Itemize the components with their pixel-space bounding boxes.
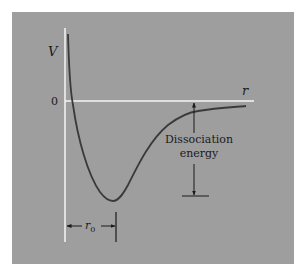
y-axis-label: V <box>48 44 59 59</box>
zero-label: 0 <box>51 95 58 108</box>
dissociation-label-line1: Dissociation <box>165 133 233 146</box>
r0-subscript: 0 <box>90 225 95 234</box>
dissociation-label-line2: energy <box>180 147 219 160</box>
potential-energy-diagram: V r 0 Dissociation energy r0 <box>0 0 307 278</box>
x-axis-label: r <box>242 83 249 98</box>
